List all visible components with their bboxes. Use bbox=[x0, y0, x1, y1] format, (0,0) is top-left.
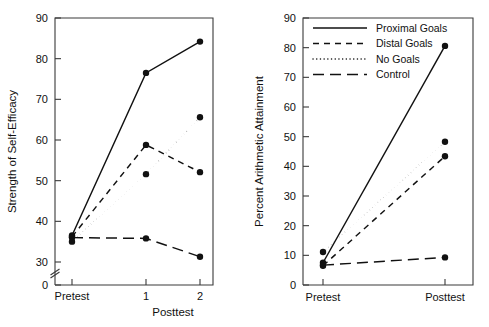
y-axis-ticks: 304050607080900 bbox=[36, 12, 61, 291]
y-tick-label-60: 60 bbox=[284, 101, 296, 113]
series-line bbox=[323, 257, 445, 265]
legend: Proximal GoalsDistal GoalsNo GoalsContro… bbox=[313, 22, 447, 81]
data-point-3-0 bbox=[69, 234, 75, 240]
x-tick-label-2: 2 bbox=[197, 290, 203, 302]
data-point-0-2 bbox=[197, 38, 203, 44]
data-point-0-1 bbox=[143, 70, 149, 76]
series-no-goals bbox=[69, 114, 203, 245]
series-line bbox=[72, 238, 200, 257]
legend-label: Proximal Goals bbox=[376, 22, 447, 34]
series-line bbox=[72, 117, 200, 241]
data-point-2-2 bbox=[197, 114, 203, 120]
series-distal-goals bbox=[320, 153, 448, 269]
y-tick-label-40: 40 bbox=[36, 215, 48, 227]
series-distal-goals bbox=[69, 142, 203, 240]
y-tick-label-20: 20 bbox=[284, 220, 296, 232]
y-tick-label-0: 0 bbox=[290, 279, 296, 291]
legend-item-no-goals[interactable]: No Goals bbox=[313, 53, 420, 65]
self-efficacy-chart: 304050607080900Pretest12PosttestStrength… bbox=[0, 0, 245, 327]
y-tick-label-80: 80 bbox=[284, 42, 296, 54]
y-axis-label: Percent Arithmetic Attainment bbox=[253, 75, 265, 227]
x-tick-label-0: Pretest bbox=[55, 290, 90, 302]
series-line bbox=[323, 142, 445, 252]
x-axis-ticks: PretestPosttest bbox=[306, 279, 465, 303]
y-axis-label: Strength of Self-Efficacy bbox=[6, 90, 18, 213]
series-control bbox=[69, 234, 203, 260]
data-point-3-2 bbox=[197, 254, 203, 260]
legend-label: Distal Goals bbox=[376, 37, 433, 49]
data-point-0-1 bbox=[442, 43, 448, 49]
x-axis-ticks: Pretest12 bbox=[55, 279, 203, 302]
x-axis-label: Posttest bbox=[152, 306, 194, 318]
y-tick-label-90: 90 bbox=[36, 12, 48, 24]
figure-container: 304050607080900Pretest12PosttestStrength… bbox=[0, 0, 489, 327]
y-tick-label-50: 50 bbox=[284, 131, 296, 143]
series-line bbox=[323, 156, 445, 265]
legend-item-control[interactable]: Control bbox=[313, 68, 410, 80]
data-point-1-1 bbox=[143, 142, 149, 148]
series-control bbox=[320, 254, 448, 268]
legend-item-distal-goals[interactable]: Distal Goals bbox=[313, 37, 433, 49]
data-point-3-0 bbox=[320, 262, 326, 268]
y-tick-label-10: 10 bbox=[284, 249, 296, 261]
data-point-1-1 bbox=[442, 153, 448, 159]
y-tick-label-40: 40 bbox=[284, 160, 296, 172]
legend-item-proximal-goals[interactable]: Proximal Goals bbox=[313, 22, 447, 34]
legend-label: No Goals bbox=[376, 53, 420, 65]
y-tick-label-90: 90 bbox=[284, 12, 296, 24]
series-line bbox=[72, 42, 200, 236]
series-proximal-goals bbox=[69, 38, 203, 238]
y-tick-label-50: 50 bbox=[36, 175, 48, 187]
y-tick-label-80: 80 bbox=[36, 53, 48, 65]
y-axis-ticks: 0102030405060708090 bbox=[284, 12, 309, 291]
x-tick-label-0: Pretest bbox=[306, 291, 341, 303]
x-tick-label-1: 1 bbox=[143, 290, 149, 302]
chart-panel-arithmetic-attainment: 0102030405060708090PretestPosttestPercen… bbox=[245, 0, 489, 327]
data-point-3-1 bbox=[442, 254, 448, 260]
data-point-2-1 bbox=[442, 139, 448, 145]
data-point-2-1 bbox=[143, 171, 149, 177]
series-line bbox=[72, 145, 200, 237]
series-no-goals bbox=[320, 139, 448, 256]
data-point-1-2 bbox=[197, 169, 203, 175]
legend-label: Control bbox=[376, 68, 410, 80]
y-tick-label-70: 70 bbox=[36, 93, 48, 105]
data-point-2-0 bbox=[320, 249, 326, 255]
y-tick-label-30: 30 bbox=[284, 190, 296, 202]
plot-frame bbox=[55, 18, 213, 285]
y-tick-label-0: 0 bbox=[42, 279, 48, 291]
data-point-3-1 bbox=[143, 235, 149, 241]
x-tick-label-1: Posttest bbox=[425, 291, 465, 303]
y-tick-label-70: 70 bbox=[284, 71, 296, 83]
chart-panel-self-efficacy: 304050607080900Pretest12PosttestStrength… bbox=[0, 0, 245, 327]
y-tick-label-60: 60 bbox=[36, 134, 48, 146]
arithmetic-attainment-chart: 0102030405060708090PretestPosttestPercen… bbox=[245, 0, 489, 327]
y-tick-label-30: 30 bbox=[36, 256, 48, 268]
